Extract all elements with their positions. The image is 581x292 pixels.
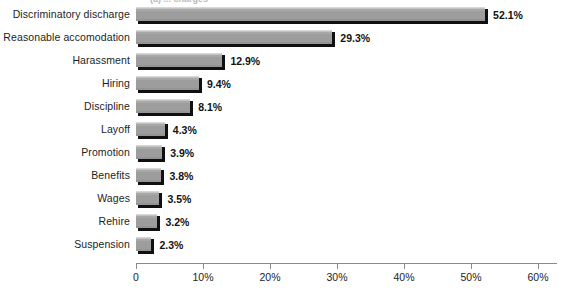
value-label: 2.3% <box>159 237 183 253</box>
bar-fill <box>136 191 159 205</box>
x-axis-line <box>136 263 557 264</box>
category-label: Suspension <box>0 236 130 253</box>
bar-shadow-right <box>162 147 165 162</box>
bar-fill <box>136 122 165 136</box>
chart-title-cutoff: (a) ... charges <box>150 0 320 5</box>
bar-row: Benefits3.8% <box>0 167 581 190</box>
bar-row: Layoff4.3% <box>0 121 581 144</box>
bar-shadow-bottom <box>138 205 161 208</box>
bar <box>136 7 488 25</box>
bar <box>136 168 164 186</box>
value-label: 29.3% <box>340 30 370 46</box>
value-label: 3.9% <box>170 145 194 161</box>
category-label: Hiring <box>0 75 130 92</box>
bar-shadow-bottom <box>138 90 201 93</box>
bar-shadow-bottom <box>138 113 192 116</box>
x-axis-tick-label: 60% <box>508 271 568 283</box>
bar-shadow-right <box>165 124 168 139</box>
bar-shadow-right <box>222 55 225 70</box>
bar-fill <box>136 76 199 90</box>
value-label: 3.2% <box>165 214 189 230</box>
bar-shadow-bottom <box>138 159 164 162</box>
bar-shadow-bottom <box>138 182 163 185</box>
category-label: Discipline <box>0 98 130 115</box>
bar <box>136 30 335 48</box>
bar <box>136 145 165 163</box>
bar <box>136 99 193 117</box>
bar-row: Harassment12.9% <box>0 52 581 75</box>
bar-shadow-right <box>159 193 162 208</box>
bar-shadow-bottom <box>138 136 167 139</box>
bar-row: Wages3.5% <box>0 190 581 213</box>
value-label: 4.3% <box>173 122 197 138</box>
bar-row: Promotion3.9% <box>0 144 581 167</box>
value-label: 3.5% <box>167 191 191 207</box>
x-axis-tick <box>136 263 137 269</box>
bar <box>136 122 168 140</box>
bar-shadow-bottom <box>138 228 159 231</box>
bar-fill <box>136 53 222 67</box>
x-axis-tick-label: 10% <box>173 271 233 283</box>
bar-fill <box>136 30 332 44</box>
bar-row: Suspension2.3% <box>0 236 581 259</box>
bar <box>136 76 202 94</box>
value-label: 8.1% <box>198 99 222 115</box>
x-axis-tick-label: 50% <box>441 271 501 283</box>
category-label: Reasonable accomodation <box>0 29 130 46</box>
bar <box>136 214 160 232</box>
x-axis-tick <box>471 263 472 269</box>
bar-fill <box>136 7 485 21</box>
bar-fill <box>136 99 190 113</box>
x-axis-tick <box>538 263 539 269</box>
bar-shadow-bottom <box>138 67 224 70</box>
category-label: Layoff <box>0 121 130 138</box>
plot-area: Discriminatory discharge52.1%Reasonable … <box>0 6 581 264</box>
bar <box>136 191 162 209</box>
bar-shadow-bottom <box>138 44 334 47</box>
x-axis-tick-label: 0 <box>106 271 166 283</box>
bar-shadow-right <box>151 239 154 254</box>
bar-row: Hiring9.4% <box>0 75 581 98</box>
category-label: Harassment <box>0 52 130 69</box>
x-axis: 010%20%30%40%50%60% <box>0 263 581 292</box>
category-label: Rehire <box>0 213 130 230</box>
bar <box>136 237 154 255</box>
category-label: Promotion <box>0 144 130 161</box>
bar-shadow-right <box>332 32 335 47</box>
bar-shadow-right <box>199 78 202 93</box>
bar-shadow-right <box>161 170 164 185</box>
bar-shadow-right <box>157 216 160 231</box>
bar-fill <box>136 168 161 182</box>
x-axis-tick <box>203 263 204 269</box>
bar-row: Discipline8.1% <box>0 98 581 121</box>
bar-row: Discriminatory discharge52.1% <box>0 6 581 29</box>
value-label: 9.4% <box>207 76 231 92</box>
value-label: 52.1% <box>493 7 523 23</box>
category-label: Discriminatory discharge <box>0 6 130 23</box>
bar-row: Reasonable accomodation29.3% <box>0 29 581 52</box>
bar-shadow-bottom <box>138 21 487 24</box>
bar-fill <box>136 214 157 228</box>
bar <box>136 53 225 71</box>
category-label: Benefits <box>0 167 130 184</box>
bar-fill <box>136 237 151 251</box>
value-label: 12.9% <box>230 53 260 69</box>
x-axis-tick-label: 30% <box>307 271 367 283</box>
x-axis-tick <box>404 263 405 269</box>
x-axis-tick <box>337 263 338 269</box>
bar-shadow-right <box>485 9 488 24</box>
x-axis-tick <box>270 263 271 269</box>
value-label: 3.8% <box>169 168 193 184</box>
x-axis-tick-label: 20% <box>240 271 300 283</box>
category-label: Wages <box>0 190 130 207</box>
bar-row: Rehire3.2% <box>0 213 581 236</box>
bar-fill <box>136 145 162 159</box>
bar-chart: (a) ... charges Discriminatory discharge… <box>0 0 581 292</box>
x-axis-tick-label: 40% <box>374 271 434 283</box>
bar-shadow-right <box>190 101 193 116</box>
